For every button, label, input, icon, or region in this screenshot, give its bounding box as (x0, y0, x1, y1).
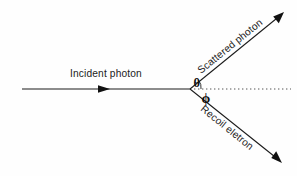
recoil-electron-label: Recoil eletron (199, 103, 256, 152)
compton-scattering-figure: θ ϕ Incident photon Scattered photon Rec… (0, 0, 297, 176)
diagram-canvas: θ ϕ Incident photon Scattered photon Rec… (0, 0, 297, 176)
incident-photon-ray (22, 85, 190, 93)
recoil-electron-arrowhead-icon (271, 151, 282, 163)
scattered-photon-arrowhead-icon (273, 12, 284, 23)
incident-photon-arrowhead-icon (98, 85, 110, 93)
scattered-photon-line (190, 17, 279, 90)
scattered-photon-label: Scattered photon (195, 17, 264, 76)
scattered-photon-ray (190, 12, 284, 89)
theta-symbol: θ (194, 76, 201, 90)
incident-photon-label: Incident photon (70, 68, 142, 79)
